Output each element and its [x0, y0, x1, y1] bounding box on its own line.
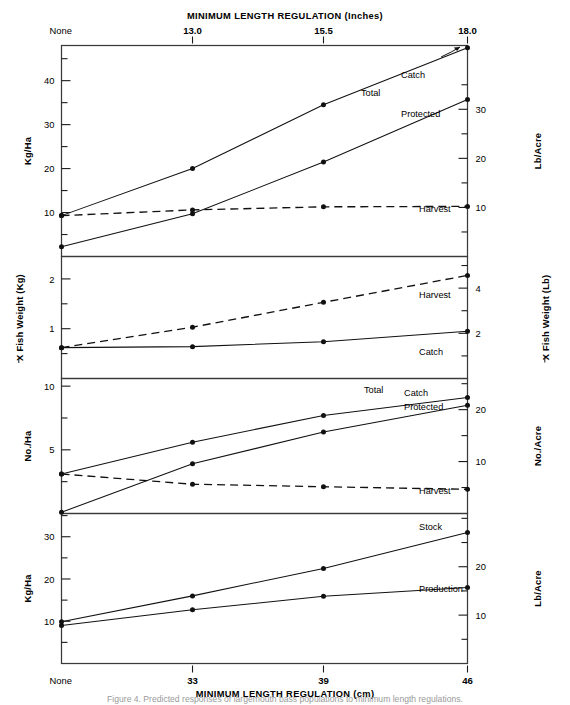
y-tick-label: 10 — [44, 381, 54, 392]
y-axis-title-right-2: X Fish Weight (Lb) — [540, 275, 551, 361]
data-point — [465, 395, 470, 400]
panel-frame-4 — [62, 514, 468, 664]
label-stock-p4: Stock — [419, 522, 442, 532]
series-line-harvest — [62, 474, 468, 489]
x-tick-label-bottom: 46 — [462, 675, 473, 686]
data-point — [321, 339, 326, 344]
data-point — [465, 487, 470, 492]
y-tick-label: 1 — [49, 323, 54, 334]
data-point — [465, 585, 470, 590]
data-point — [190, 207, 195, 212]
label-total-p3: Total — [364, 385, 383, 395]
data-point — [59, 345, 64, 350]
y-tick-label-right: 20 — [476, 561, 486, 572]
y-axis-title-left-3: No./Ha — [22, 430, 33, 461]
data-point — [321, 594, 326, 599]
y-tick-label: 30 — [44, 531, 54, 542]
label-protected-p3: Protected — [404, 402, 443, 412]
y-tick-label-right: 4 — [476, 283, 481, 294]
y-axis-title-left-4: Kg/Ha — [22, 574, 33, 603]
label-harvest-p3: Harvest — [419, 486, 451, 496]
data-point — [59, 623, 64, 628]
y-tick-label: 10 — [44, 207, 54, 218]
x-tick-label-top: None — [50, 25, 72, 36]
data-point — [59, 472, 64, 477]
y-tick-label-right: 10 — [476, 202, 486, 213]
label-protected-p1: Protected — [401, 109, 440, 119]
data-point — [59, 510, 64, 515]
data-point — [321, 102, 326, 107]
series-line-harvest — [62, 275, 468, 347]
x-tick-label-bottom: 39 — [318, 675, 329, 686]
y-tick-label-right: 30 — [476, 104, 486, 115]
data-point — [321, 204, 326, 209]
data-point — [465, 530, 470, 535]
top-axis-title: MINIMUM LENGTH REGULATION (Inches) — [187, 11, 383, 21]
data-point — [321, 300, 326, 305]
label-catch-p2: Catch — [419, 347, 443, 357]
y-tick-label: 20 — [44, 574, 54, 585]
data-point — [465, 204, 470, 209]
y-axis-title-left-1: Kg/Ha — [22, 136, 33, 165]
fisheries-multipanel-figure: 10203040102030122451010201020301020MINIM… — [0, 0, 570, 705]
y-tick-label-right: 20 — [476, 153, 486, 164]
y-tick-label: 30 — [44, 119, 54, 130]
data-point — [465, 329, 470, 334]
y-axis-title-left-2: X Fish Weight (Kg) — [14, 274, 25, 361]
y-tick-label-right: 20 — [476, 404, 486, 415]
label-harvest-p1: Harvest — [419, 204, 451, 214]
x-tick-label-top: 18.0 — [458, 25, 477, 36]
x-tick-label-top: 13.0 — [183, 25, 202, 36]
y-tick-label: 5 — [49, 444, 54, 455]
data-point — [190, 166, 195, 171]
data-point — [465, 97, 470, 102]
y-axis-title-right-4: Lb/Acre — [532, 570, 543, 606]
series-line-stock — [62, 533, 468, 622]
series-line-protected — [62, 100, 468, 247]
x-tick-label-bottom: 33 — [187, 675, 198, 686]
y-tick-label-right: 10 — [476, 456, 486, 467]
y-tick-label: 40 — [44, 75, 54, 86]
y-tick-label: 10 — [44, 616, 54, 627]
data-point — [190, 325, 195, 330]
series-line-harvest — [62, 206, 468, 215]
label-harvest-p2: Harvest — [419, 290, 451, 300]
x-tick-label-top: 15.5 — [314, 25, 333, 36]
data-point — [190, 607, 195, 612]
x-tick-label-bottom: None — [50, 675, 72, 686]
series-line-production — [62, 587, 468, 625]
figure-caption: Figure 4. Predicted responses of largemo… — [107, 694, 463, 704]
label-production-p4: Production — [419, 584, 463, 594]
data-point — [190, 440, 195, 445]
panel-frame-2 — [62, 257, 468, 379]
data-point — [190, 482, 195, 487]
y-tick-label: 2 — [49, 274, 54, 285]
y-axis-title-right-3: No./Acre — [532, 426, 543, 466]
y-tick-label-right: 2 — [476, 328, 481, 339]
data-point — [321, 484, 326, 489]
data-point — [321, 413, 326, 418]
chart-canvas: 10203040102030122451010201020301020MINIM… — [0, 0, 570, 705]
data-point — [465, 45, 470, 50]
y-tick-label-right: 10 — [476, 610, 486, 621]
label-total-p1: Total — [361, 88, 380, 98]
label-catch-p3: Catch — [404, 388, 428, 398]
label-catch-p1: Catch — [401, 70, 425, 80]
data-point — [321, 159, 326, 164]
data-point — [59, 244, 64, 249]
data-point — [321, 429, 326, 434]
data-point — [321, 566, 326, 571]
data-point — [465, 403, 470, 408]
data-point — [190, 593, 195, 598]
y-axis-title-right-1: Lb/Acre — [532, 133, 543, 169]
data-point — [465, 273, 470, 278]
data-point — [59, 213, 64, 218]
series-line-catch — [62, 331, 468, 347]
y-tick-label: 20 — [44, 163, 54, 174]
data-point — [190, 461, 195, 466]
data-point — [190, 344, 195, 349]
